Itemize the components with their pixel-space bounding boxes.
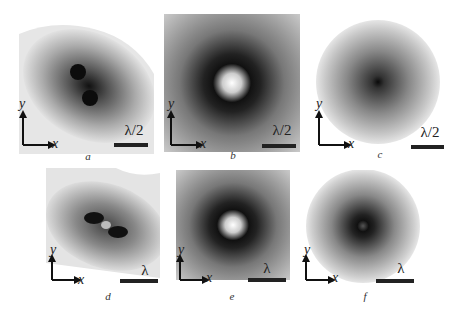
scale-label-d: λ: [130, 262, 160, 279]
scalebar-f: [376, 279, 414, 283]
scale-label-e: λ: [252, 260, 282, 277]
panel-label-c: c: [370, 148, 390, 160]
panel-label-d: d: [98, 290, 118, 302]
scale-label-f: λ: [386, 260, 416, 277]
axis-x-label-f: x: [332, 270, 338, 286]
axis-x-label-b: x: [200, 136, 206, 152]
panel-label-b: b: [223, 149, 243, 161]
axis-x-label-c: x: [348, 136, 354, 152]
scale-label-a: λ/2: [114, 122, 154, 139]
scale-label-b: λ/2: [262, 122, 302, 139]
panel-label-f: f: [355, 290, 375, 302]
scalebar-a: [114, 143, 148, 147]
scale-label-c: λ/2: [410, 124, 450, 141]
scalebar-d: [120, 279, 158, 283]
axis-x-label-e: x: [206, 270, 212, 286]
panel-label-a: a: [78, 150, 98, 162]
scalebar-b: [262, 144, 296, 148]
axis-x-label-a: x: [52, 136, 58, 152]
axis-x-label-d: x: [78, 272, 84, 288]
panel-label-e: e: [222, 290, 242, 302]
scalebar-e: [248, 278, 286, 282]
scalebar-c: [411, 145, 444, 149]
